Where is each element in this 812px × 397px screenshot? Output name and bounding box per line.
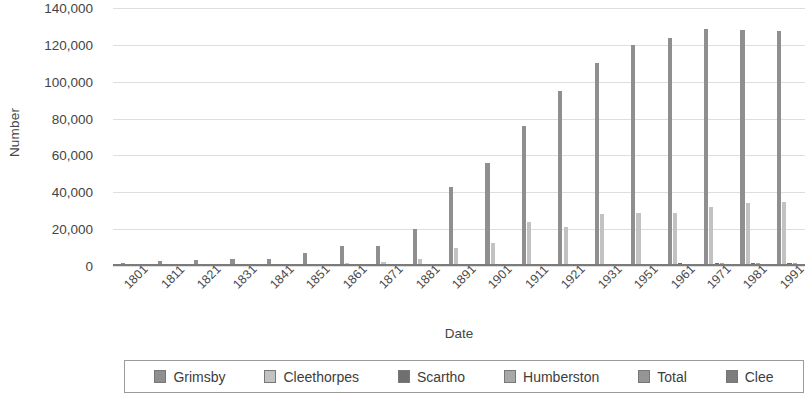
bar	[704, 29, 708, 266]
bar-group	[113, 8, 149, 266]
x-tick-cell: 1831	[222, 268, 258, 320]
y-tick-label: 20,000	[7, 222, 93, 237]
y-tick-label: 100,000	[7, 74, 93, 89]
x-tick-cell: 1961	[659, 268, 695, 320]
legend-label: Cleethorpes	[283, 369, 359, 385]
bar	[595, 63, 599, 266]
x-tick-cell: 1901	[477, 268, 513, 320]
bar	[782, 202, 786, 266]
bar	[340, 246, 344, 266]
chart-legend: GrimsbyCleethorpesScarthoHumberstonTotal…	[124, 360, 804, 393]
bar-group	[623, 8, 659, 266]
y-tick-label: 60,000	[7, 148, 93, 163]
y-tick-label: 40,000	[7, 185, 93, 200]
legend-item[interactable]: Humberston	[504, 369, 599, 385]
bar	[558, 91, 562, 266]
bar-group	[659, 8, 695, 266]
bar	[485, 163, 489, 266]
bar-group	[259, 8, 295, 266]
legend-label: Clee	[745, 369, 774, 385]
bar	[449, 187, 453, 266]
bar	[522, 126, 526, 266]
legend-item[interactable]: Clee	[726, 369, 774, 385]
bar-group	[477, 8, 513, 266]
bar-group	[514, 8, 550, 266]
x-tick-cell: 1821	[186, 268, 222, 320]
legend-swatch-icon	[264, 370, 276, 383]
bar	[746, 203, 750, 266]
bar	[491, 243, 495, 266]
bar	[631, 45, 635, 266]
x-tick-cell: 1921	[550, 268, 586, 320]
legend-item[interactable]: Scartho	[398, 369, 465, 385]
bar	[668, 38, 672, 266]
bar	[527, 222, 531, 266]
x-tick-cell: 1811	[149, 268, 185, 320]
legend-swatch-icon	[154, 370, 166, 383]
bar-group	[769, 8, 805, 266]
bar	[777, 31, 781, 266]
x-tick-cell: 1931	[586, 268, 622, 320]
bar-group	[368, 8, 404, 266]
x-tick-cell: 1991	[769, 268, 805, 320]
x-tick-cell: 1801	[113, 268, 149, 320]
bar-group	[295, 8, 331, 266]
legend-label: Humberston	[523, 369, 599, 385]
bar-group	[550, 8, 586, 266]
bar	[564, 227, 568, 266]
bar	[709, 207, 713, 266]
legend-item[interactable]: Total	[638, 369, 687, 385]
x-tick-cell: 1861	[332, 268, 368, 320]
bar-group	[332, 8, 368, 266]
bar-group	[696, 8, 732, 266]
legend-swatch-icon	[504, 370, 516, 383]
y-tick-label: 0	[7, 259, 93, 274]
x-tick-cell: 1911	[514, 268, 550, 320]
legend-label: Grimsby	[173, 369, 225, 385]
legend-label: Total	[657, 369, 687, 385]
bar	[413, 229, 417, 266]
x-tick-cell: 1891	[441, 268, 477, 320]
y-tick-label: 80,000	[7, 111, 93, 126]
x-tick-cell: 1951	[623, 268, 659, 320]
x-tick-cell: 1871	[368, 268, 404, 320]
bar	[376, 246, 380, 266]
legend-swatch-icon	[638, 370, 650, 383]
bar-groups	[113, 8, 805, 266]
plot-area	[113, 8, 805, 266]
y-tick-label: 140,000	[7, 1, 93, 16]
bar-group	[732, 8, 768, 266]
bar-group	[586, 8, 622, 266]
bar-group	[186, 8, 222, 266]
bar	[740, 30, 744, 266]
bar	[600, 214, 604, 266]
bar	[636, 213, 640, 266]
x-axis-title: Date	[113, 326, 805, 341]
bar-group	[441, 8, 477, 266]
population-bar-chart: Number 140,000120,000100,00080,00060,000…	[0, 0, 812, 397]
legend-item[interactable]: Cleethorpes	[264, 369, 359, 385]
legend-swatch-icon	[726, 370, 738, 383]
bar-group	[404, 8, 440, 266]
legend-item[interactable]: Grimsby	[154, 369, 225, 385]
x-tick-cell: 1971	[696, 268, 732, 320]
bar	[673, 213, 677, 266]
x-tick-cell: 1981	[732, 268, 768, 320]
x-tick-cell: 1881	[404, 268, 440, 320]
x-tick-cell: 1841	[259, 268, 295, 320]
bar	[454, 248, 458, 266]
y-tick-label: 120,000	[7, 37, 93, 52]
x-axis-ticks: 1801181118211831184118511861187118811891…	[113, 268, 805, 320]
x-tick-cell: 1851	[295, 268, 331, 320]
y-axis-title: Number	[7, 83, 22, 183]
bar-group	[222, 8, 258, 266]
bar-group	[149, 8, 185, 266]
legend-swatch-icon	[398, 370, 410, 383]
legend-label: Scartho	[417, 369, 465, 385]
